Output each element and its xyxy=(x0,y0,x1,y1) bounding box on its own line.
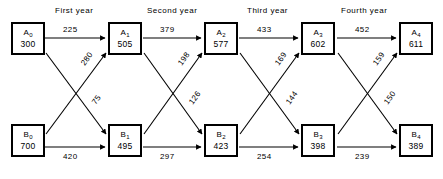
year-header-fourth: Fourth year xyxy=(341,6,387,15)
node-b1-value: 495 xyxy=(118,142,133,151)
node-b0-value: 700 xyxy=(21,142,36,151)
node-a3-sub: 3 xyxy=(319,32,323,38)
edge-label-b1-b2: 297 xyxy=(159,152,176,161)
node-b4-label: B4 xyxy=(411,130,420,140)
node-b3-value: 398 xyxy=(311,142,326,151)
node-a0-value: 300 xyxy=(21,40,36,49)
node-a1-label: A1 xyxy=(120,28,129,38)
edge-label-a1-a2: 379 xyxy=(159,25,176,34)
year-header-third: Third year xyxy=(247,6,288,15)
node-b3-sub: 3 xyxy=(319,134,323,140)
flow-diagram: First year Second year Third year Fourth… xyxy=(0,0,443,179)
node-b0-sub: 0 xyxy=(29,134,33,140)
node-a4-sub: 4 xyxy=(417,32,421,38)
edge-label-b0-b1: 420 xyxy=(62,152,79,161)
node-a2: A2 577 xyxy=(204,22,238,55)
node-a2-sub: 2 xyxy=(222,32,226,38)
node-b4: B4 389 xyxy=(399,124,433,157)
node-b0-label: B0 xyxy=(23,130,32,140)
node-b2-label: B2 xyxy=(216,130,225,140)
node-a4-label: A4 xyxy=(411,28,420,38)
node-b4-value: 389 xyxy=(409,142,424,151)
edge-label-a3-a4: 452 xyxy=(354,25,371,34)
node-a0: A0 300 xyxy=(11,22,45,55)
node-a1-value: 505 xyxy=(118,40,133,49)
node-b0: B0 700 xyxy=(11,124,45,157)
node-b3: B3 398 xyxy=(301,124,335,157)
node-a1: A1 505 xyxy=(108,22,142,55)
node-a2-value: 577 xyxy=(214,40,229,49)
node-b1-label: B1 xyxy=(120,130,129,140)
edge-label-b2-b3: 254 xyxy=(256,152,273,161)
edge-label-a0-a1: 225 xyxy=(62,25,79,34)
node-a3-value: 602 xyxy=(311,40,326,49)
node-b2-value: 423 xyxy=(214,142,229,151)
node-a1-sub: 1 xyxy=(126,32,130,38)
year-header-second: Second year xyxy=(147,6,197,15)
node-a4-value: 611 xyxy=(409,40,423,49)
node-b1: B1 495 xyxy=(108,124,142,157)
node-b2-sub: 2 xyxy=(222,134,226,140)
edge-label-b3-b4: 239 xyxy=(354,152,371,161)
node-a2-label: A2 xyxy=(216,28,225,38)
node-b3-label: B3 xyxy=(313,130,322,140)
node-a3: A3 602 xyxy=(301,22,335,55)
node-a0-sub: 0 xyxy=(29,32,33,38)
node-b4-sub: 4 xyxy=(417,134,421,140)
node-a3-label: A3 xyxy=(313,28,322,38)
node-b2: B2 423 xyxy=(204,124,238,157)
node-b1-sub: 1 xyxy=(126,134,130,140)
node-a4: A4 611 xyxy=(399,22,433,55)
node-a0-label: A0 xyxy=(23,28,32,38)
year-header-first: First year xyxy=(55,6,93,15)
edge-label-a2-a3: 433 xyxy=(256,25,273,34)
